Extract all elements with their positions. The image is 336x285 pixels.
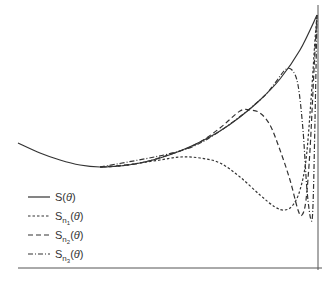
series-line-3 — [100, 15, 317, 221]
legend: S(θ) Sn1(θ) Sn2(θ) Sn3(θ) — [28, 191, 83, 264]
legend-label-sn1: Sn1(θ) — [55, 210, 83, 226]
legend-label-sn3: Sn3(θ) — [55, 248, 83, 264]
series-line-0 — [18, 15, 317, 167]
legend-label-sn2: Sn2(θ) — [55, 229, 83, 245]
series-line-2 — [100, 15, 317, 216]
series-line-1 — [100, 15, 317, 210]
legend-label-s: S(θ) — [55, 191, 76, 203]
chart: S(θ) Sn1(θ) Sn2(θ) Sn3(θ) — [0, 0, 336, 285]
